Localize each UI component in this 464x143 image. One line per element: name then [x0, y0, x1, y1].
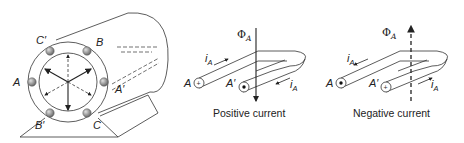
stator-winding-diagram: C′ B A A′ B′ C + ΦA iA iA A A′ Positive …: [0, 0, 464, 143]
label-b-prime: B′: [35, 119, 45, 131]
current-arrow-out: [354, 59, 368, 65]
conductor-b: [83, 47, 91, 55]
terminal-a-prime-positive: A′: [225, 77, 236, 89]
conductor-c-prime: [46, 47, 54, 55]
current-arrow-in: [418, 78, 432, 84]
current-arrow-in: [214, 59, 228, 65]
label-b: B: [96, 36, 103, 48]
conductor-a: [28, 78, 36, 86]
label-a-prime: A′: [114, 83, 125, 95]
terminal-a-negative: A: [325, 77, 333, 89]
label-c-prime: C′: [36, 34, 47, 46]
terminal-a-positive: A: [183, 77, 191, 89]
current-arrow-out: [276, 78, 290, 84]
current-label-negative-in: iA: [431, 78, 438, 93]
terminal-a-prime-negative: A′: [368, 77, 379, 89]
dot-symbol-a-prime: [242, 85, 245, 88]
label-a: A: [12, 76, 20, 88]
plus-symbol-a-prime: +: [384, 84, 388, 91]
caption-positive-current: Positive current: [213, 107, 285, 119]
plus-symbol-a: +: [197, 80, 201, 87]
current-label-negative-out: iA: [347, 52, 354, 67]
conductor-c: [83, 109, 91, 117]
label-c: C: [93, 119, 101, 131]
current-label-positive-out: iA: [290, 78, 297, 93]
conductor-b-prime: [46, 109, 54, 117]
flux-label-positive: ΦA: [237, 28, 252, 43]
dot-symbol-a: [339, 81, 342, 84]
flux-label-negative: ΦA: [382, 26, 397, 41]
conductor-a-prime: [100, 78, 108, 86]
caption-negative-current: Negative current: [353, 107, 430, 119]
current-label-positive-in: iA: [205, 52, 212, 67]
